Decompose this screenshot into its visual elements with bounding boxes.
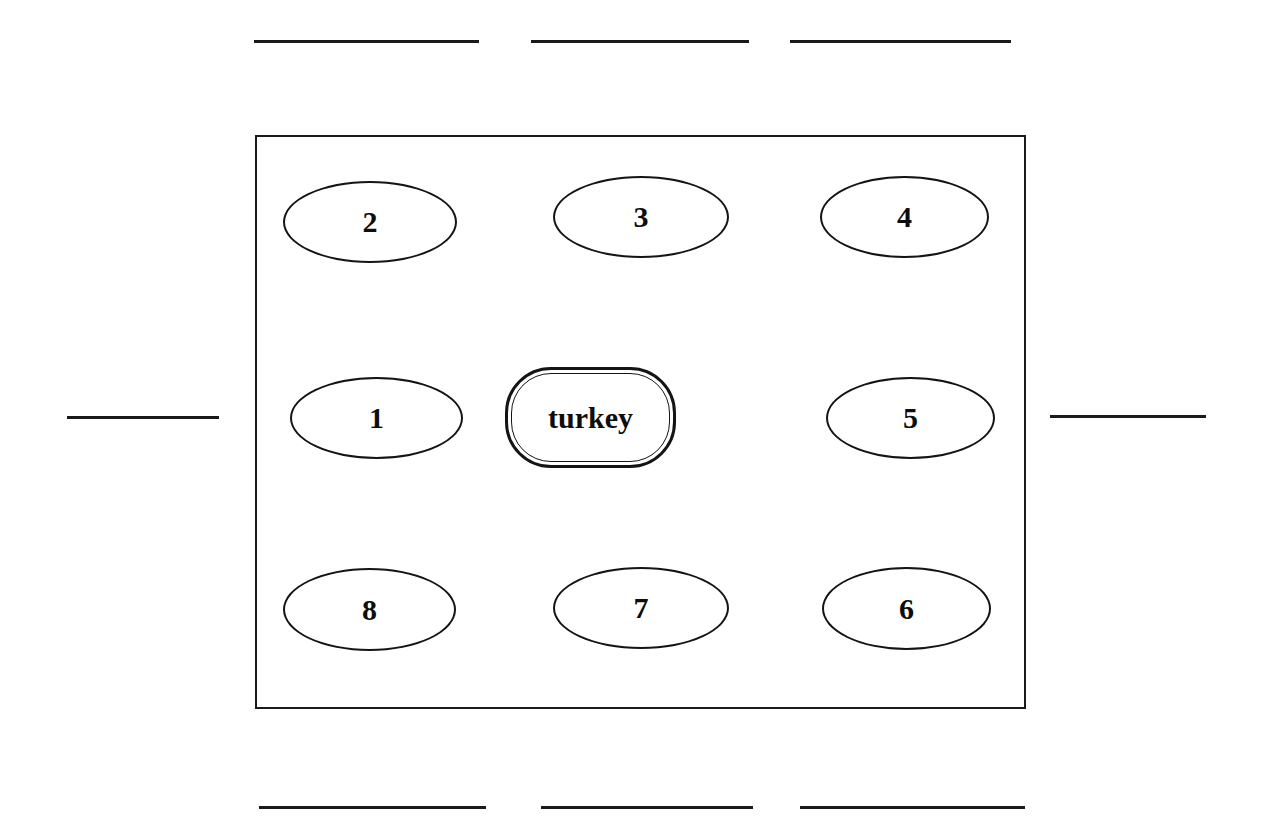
center-node-label: turkey (548, 403, 633, 433)
write-line-bottom-left (259, 806, 486, 809)
center-node-inner-border: turkey (511, 373, 670, 462)
write-line-top-left (254, 40, 479, 43)
node-5[interactable]: 5 (826, 377, 995, 459)
node-label: 4 (897, 202, 912, 232)
node-3[interactable]: 3 (553, 176, 729, 258)
write-line-right (1050, 415, 1206, 418)
node-6[interactable]: 6 (822, 567, 991, 650)
node-label: 6 (899, 594, 914, 624)
write-line-bottom-right (800, 806, 1025, 809)
node-8[interactable]: 8 (283, 568, 456, 651)
write-line-bottom-center (541, 806, 753, 809)
write-line-top-right (790, 40, 1011, 43)
diagram-canvas: 23415876 turkey (0, 0, 1271, 835)
node-label: 7 (634, 593, 649, 623)
write-line-top-center (531, 40, 749, 43)
node-4[interactable]: 4 (820, 176, 989, 258)
node-7[interactable]: 7 (553, 567, 729, 649)
node-label: 1 (369, 403, 384, 433)
node-label: 3 (634, 202, 649, 232)
center-node[interactable]: turkey (505, 367, 676, 468)
write-line-left (67, 416, 219, 419)
node-label: 2 (363, 207, 378, 237)
node-label: 5 (903, 403, 918, 433)
node-2[interactable]: 2 (283, 181, 457, 263)
node-1[interactable]: 1 (290, 377, 463, 459)
node-label: 8 (362, 595, 377, 625)
